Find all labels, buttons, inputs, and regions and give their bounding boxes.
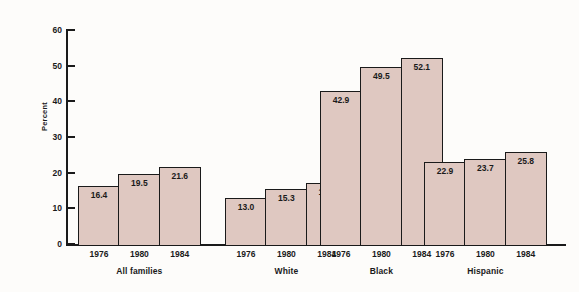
bar: 22.9 xyxy=(424,162,466,246)
y-axis-tick xyxy=(68,65,75,67)
x-axis-year-label: 1976 xyxy=(225,249,267,259)
bar-value-label: 15.3 xyxy=(266,194,306,203)
bar: 13.0 xyxy=(225,198,267,246)
x-axis-year-label: 1980 xyxy=(360,249,402,259)
bar-value-label: 21.6 xyxy=(160,172,200,181)
bar-value-label: 49.5 xyxy=(361,72,401,81)
bar-value-label: 19.5 xyxy=(119,179,159,188)
bar-value-label: 13.0 xyxy=(226,203,266,212)
y-axis-tick-label: 10 xyxy=(30,204,62,212)
y-axis-tick xyxy=(68,136,75,138)
bar: 49.5 xyxy=(360,67,402,246)
y-axis-tick xyxy=(68,29,75,31)
bar: 21.6 xyxy=(159,167,201,246)
y-axis-tick xyxy=(68,207,75,209)
bar: 16.4 xyxy=(78,186,120,246)
bar-chart: Percent 0102030405060 16.4197619.5198021… xyxy=(0,0,579,292)
bar-value-label: 52.1 xyxy=(402,63,442,72)
x-axis-year-label: 1980 xyxy=(464,249,506,259)
bar-value-label: 22.9 xyxy=(425,167,465,176)
y-axis-tick-label: 50 xyxy=(30,62,62,70)
bar: 19.5 xyxy=(118,174,160,246)
y-axis-tick xyxy=(68,172,75,174)
y-axis-tick xyxy=(68,100,75,102)
bar-value-label: 42.9 xyxy=(321,96,361,105)
bar: 23.7 xyxy=(464,159,506,246)
x-axis-year-label: 1976 xyxy=(424,249,466,259)
x-axis-year-label: 1980 xyxy=(265,249,307,259)
x-axis-group-label: All families xyxy=(78,266,201,276)
x-axis-year-label: 1980 xyxy=(118,249,160,259)
bar-value-label: 23.7 xyxy=(465,164,505,173)
bar: 42.9 xyxy=(320,91,362,246)
bar: 15.3 xyxy=(265,189,307,246)
x-axis-year-label: 1976 xyxy=(78,249,120,259)
y-axis-tick-label: 30 xyxy=(30,133,62,141)
bar-value-label: 25.8 xyxy=(506,157,546,166)
y-axis-tick-label: 60 xyxy=(30,26,62,34)
y-axis-tick-label: 40 xyxy=(30,97,62,105)
x-axis-year-label: 1984 xyxy=(159,249,201,259)
y-axis-tick-label: 0 xyxy=(30,240,62,248)
bar-value-label: 16.4 xyxy=(79,191,119,200)
bar: 25.8 xyxy=(505,152,547,246)
x-axis-group-label: Hispanic xyxy=(424,266,547,276)
y-axis-tick-label: 20 xyxy=(30,169,62,177)
x-axis-year-label: 1984 xyxy=(505,249,547,259)
x-axis-year-label: 1976 xyxy=(320,249,362,259)
